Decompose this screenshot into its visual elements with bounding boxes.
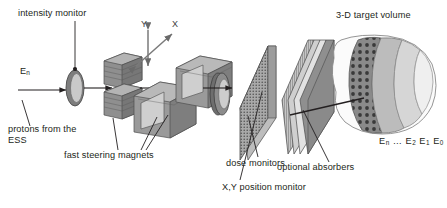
axis-label-y: Y bbox=[141, 19, 147, 29]
label-energy-layers: En…E2E1E0 bbox=[379, 136, 447, 148]
dose-monitor bbox=[210, 73, 230, 115]
energy-layer-0: En bbox=[379, 136, 390, 146]
label-protons-source: protons from the ESS bbox=[8, 124, 88, 146]
target-volume bbox=[332, 35, 436, 134]
label-steering-magnets: fast steering magnets bbox=[64, 150, 154, 161]
label-beam-energy: En bbox=[20, 66, 30, 78]
energy-layer-1: … bbox=[393, 136, 403, 146]
label-position-monitor: X,Y position monitor bbox=[222, 182, 306, 193]
energy-layer-2: E2 bbox=[406, 136, 417, 146]
label-intensity-monitor: intensity monitor bbox=[18, 8, 86, 19]
figure-canvas: intensity monitor En protons from the ES… bbox=[0, 0, 447, 208]
fast-steering-magnet-upper bbox=[104, 53, 142, 88]
beamline-schematic bbox=[0, 0, 447, 208]
axis-label-x: X bbox=[172, 19, 178, 29]
label-target-volume: 3-D target volume bbox=[336, 10, 411, 21]
xy-position-monitor bbox=[240, 46, 276, 160]
coordinate-axes bbox=[136, 30, 172, 66]
energy-layer-4: E0 bbox=[433, 136, 444, 146]
optional-absorbers bbox=[282, 40, 334, 154]
label-optional-absorbers: optional absorbers bbox=[277, 162, 354, 173]
intensity-monitor bbox=[66, 70, 84, 106]
energy-layer-3: E1 bbox=[419, 136, 430, 146]
